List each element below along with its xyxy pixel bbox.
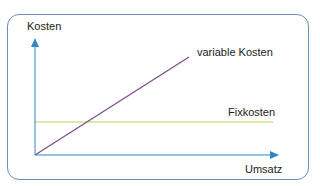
- fixed-cost-label: Fixkosten: [228, 107, 275, 118]
- variable-cost-line: [35, 57, 189, 155]
- y-axis-label: Kosten: [27, 21, 61, 32]
- y-axis-arrow-icon: [31, 38, 39, 47]
- x-axis-label: Umsatz: [245, 164, 282, 175]
- variable-cost-label: variable Kosten: [197, 47, 273, 58]
- x-axis-arrow-icon: [270, 151, 279, 159]
